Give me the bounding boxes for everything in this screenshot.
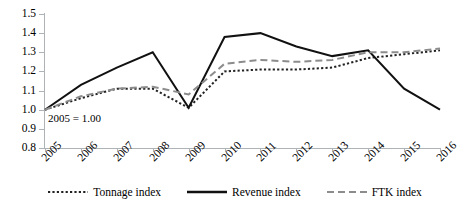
- y-tick: [39, 14, 44, 15]
- y-tick: [39, 129, 44, 130]
- y-tick: [39, 91, 44, 92]
- legend-item-revenue-index[interactable]: Revenue index: [187, 186, 301, 198]
- legend-label: Tonnage index: [93, 186, 161, 198]
- legend-item-tonnage-index[interactable]: Tonnage index: [48, 186, 161, 198]
- y-tick: [39, 52, 44, 53]
- y-tick-label: 1.4: [0, 27, 36, 38]
- y-tick-label: 0.8: [0, 142, 36, 153]
- y-tick-label: 1.1: [0, 85, 36, 96]
- legend-item-ftk-index[interactable]: FTK index: [327, 186, 422, 198]
- y-tick: [39, 33, 44, 34]
- y-tick: [39, 110, 44, 111]
- legend-swatch: [48, 188, 88, 196]
- series-line-ftk-index: [45, 48, 440, 109]
- y-tick-label: 1.2: [0, 65, 36, 76]
- baseline-annotation: 2005 = 1.00: [48, 113, 101, 124]
- legend-label: FTK index: [372, 186, 422, 198]
- series-line-tonnage-index: [45, 50, 440, 109]
- y-tick: [39, 71, 44, 72]
- chart-legend: Tonnage indexRevenue indexFTK index: [0, 186, 470, 198]
- legend-swatch: [327, 188, 367, 196]
- y-tick-label: 1.0: [0, 104, 36, 115]
- legend-swatch: [187, 188, 227, 196]
- y-tick-label: 0.9: [0, 123, 36, 134]
- y-tick-label: 1.3: [0, 46, 36, 57]
- series-lines: [45, 14, 440, 148]
- line-chart: 1.51.41.31.21.11.00.90.8 200520062007200…: [0, 0, 470, 210]
- y-tick-label: 1.5: [0, 8, 36, 19]
- legend-label: Revenue index: [232, 186, 301, 198]
- plot-area: [45, 14, 440, 148]
